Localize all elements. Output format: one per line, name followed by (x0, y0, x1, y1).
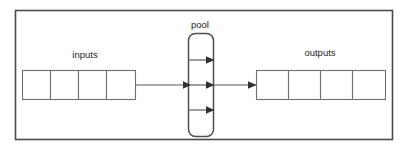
connector-pool-to-outputs (213, 81, 257, 89)
pool-arrow-bottom (189, 106, 215, 114)
pool-label: pool (191, 19, 209, 30)
inputs-cell (79, 71, 107, 100)
pool-diagram-figure: inputs pool (0, 0, 408, 148)
pool-arrow-middle (189, 81, 215, 89)
outputs-cell (257, 71, 289, 100)
outputs-cell (321, 71, 353, 100)
outputs-label: outputs (304, 47, 335, 58)
inputs-cell (107, 71, 136, 100)
arrow-head-icon (248, 81, 257, 89)
inputs-cell (51, 71, 79, 100)
inputs-cell (23, 71, 51, 100)
outputs-cell (289, 71, 321, 100)
outputs-cell-row (257, 71, 386, 100)
pool-arrow-top (189, 56, 215, 64)
diagram-canvas: inputs pool (0, 0, 408, 148)
connector-inputs-to-pool (135, 81, 191, 89)
outputs-cell (353, 71, 386, 100)
inputs-cell-row (23, 71, 136, 100)
inputs-label: inputs (72, 49, 98, 60)
